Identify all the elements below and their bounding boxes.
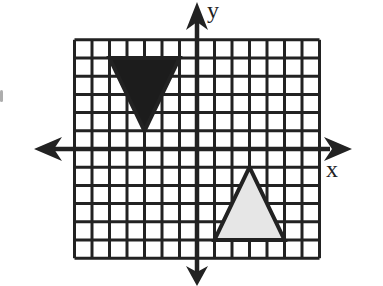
- coordinate-plane-figure: x y: [0, 0, 383, 286]
- coordinate-grid: [0, 0, 383, 286]
- edge-artifact: [0, 90, 3, 102]
- y-axis-label: y: [207, 0, 219, 22]
- x-axis-label: x: [326, 157, 338, 181]
